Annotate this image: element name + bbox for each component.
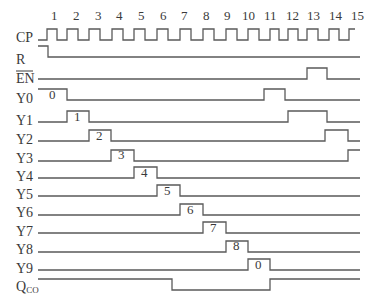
waveform-en xyxy=(38,68,360,79)
pulse-label: 4 xyxy=(141,165,148,180)
pulse-number: 14 xyxy=(329,8,343,23)
pulse-number: 10 xyxy=(242,8,255,23)
clock-pulse-numbers: 1 2 3 4 5 6 7 8 9 10 11 12 13 14 15 xyxy=(51,8,364,23)
waveform-y7 xyxy=(38,222,360,233)
pulse-number: 13 xyxy=(307,8,320,23)
pulse-number: 4 xyxy=(116,8,123,23)
pulse-label: 7 xyxy=(210,220,217,235)
signal-label-cp: CP xyxy=(16,30,33,45)
pulse-number: 1 xyxy=(51,8,58,23)
pulse-label: 5 xyxy=(164,183,171,198)
pulse-label: 0 xyxy=(49,87,56,102)
pulse-label: 1 xyxy=(74,109,81,124)
pulse-label: 0 xyxy=(255,257,262,272)
pulse-number: 12 xyxy=(286,8,299,23)
waveform-y4 xyxy=(38,167,360,178)
signal-label-y2: Y2 xyxy=(16,132,33,147)
pulse-number: 8 xyxy=(203,8,210,23)
signal-label-y1: Y1 xyxy=(16,113,33,128)
signal-label-en: EN xyxy=(16,71,35,86)
signal-labels: CP R EN Y0 Y1 Y2 Y3 Y4 Y5 Y6 Y7 Y8 Y9 QC… xyxy=(16,30,39,295)
pulse-number: 9 xyxy=(224,8,231,23)
waveform-qco xyxy=(38,279,360,290)
signal-label-r: R xyxy=(16,52,26,67)
waveform-cp xyxy=(38,29,355,40)
pulse-number: 3 xyxy=(95,8,102,23)
pulse-number: 5 xyxy=(138,8,145,23)
pulse-number: 6 xyxy=(160,8,167,23)
waveform-y2 xyxy=(38,130,360,141)
waveform-y1 xyxy=(38,111,360,122)
signal-label-y0: Y0 xyxy=(16,91,33,106)
waveform-y8 xyxy=(38,241,360,252)
pulse-label: 8 xyxy=(233,238,240,253)
waveform-y3 xyxy=(38,150,360,161)
pulse-number: 15 xyxy=(351,8,364,23)
pulse-label: 3 xyxy=(118,147,125,162)
signal-label-y6: Y6 xyxy=(16,205,33,220)
signal-label-y3: Y3 xyxy=(16,151,33,166)
signal-label-qco: QCO xyxy=(16,279,39,295)
signal-label-y7: Y7 xyxy=(16,224,33,239)
pulse-label: 2 xyxy=(96,128,103,143)
waveform-y0 xyxy=(38,89,360,100)
pulse-number: 11 xyxy=(264,8,277,23)
pulse-number: 7 xyxy=(181,8,188,23)
pulse-label: 6 xyxy=(187,202,194,217)
timing-diagram: 1 2 3 4 5 6 7 8 9 10 11 12 13 14 15 CP R… xyxy=(0,0,372,305)
signal-label-y9: Y9 xyxy=(16,261,33,276)
waveform-y6 xyxy=(38,204,360,215)
waveform-r xyxy=(38,46,360,57)
signal-label-y4: Y4 xyxy=(16,169,33,184)
signal-label-y8: Y8 xyxy=(16,242,33,257)
pulse-number: 2 xyxy=(73,8,80,23)
waveform-y9 xyxy=(38,259,360,270)
waveform-y5 xyxy=(38,185,360,196)
signal-label-y5: Y5 xyxy=(16,187,33,202)
